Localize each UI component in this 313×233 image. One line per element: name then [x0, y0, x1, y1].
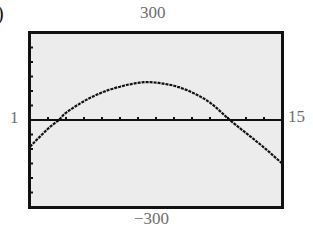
calculator-graph-screen — [0, 0, 313, 233]
